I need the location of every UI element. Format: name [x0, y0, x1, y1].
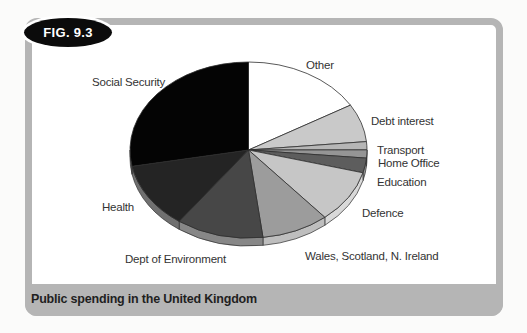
figure-badge: FIG. 9.3: [24, 18, 112, 47]
pie-label-transport: Transport: [377, 144, 424, 156]
figure-page: Public spending in the United Kingdom FI…: [0, 0, 527, 333]
pie-label-health: Health: [102, 201, 134, 213]
pie-label-home-office: Home Office: [378, 157, 440, 169]
pie-label-wales-scotland-n-ireland: Wales, Scotland, N. Ireland: [305, 250, 439, 262]
pie-label-other: Other: [306, 59, 334, 71]
pie-label-social-security: Social Security: [92, 76, 165, 88]
pie-label-dept-of-environment: Dept of Environment: [125, 253, 226, 265]
pie-label-defence: Defence: [362, 207, 403, 219]
caption-text: Public spending in the United Kingdom: [31, 292, 257, 306]
caption-bar: Public spending in the United Kingdom: [25, 284, 503, 316]
pie-label-education: Education: [377, 176, 426, 188]
pie-label-debt-interest: Debt interest: [371, 115, 434, 127]
figure-badge-label: FIG. 9.3: [43, 25, 92, 40]
